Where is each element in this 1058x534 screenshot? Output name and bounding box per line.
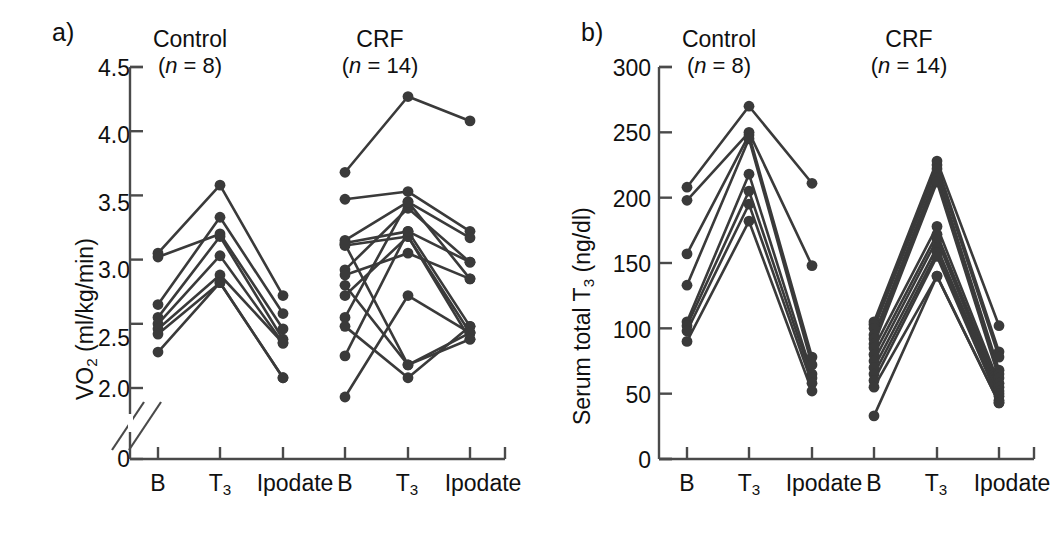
figure-container: a) Control (n = 8) CRF (n = 14) VO2 (ml/… <box>0 0 1058 534</box>
panel-a-plot <box>0 0 529 534</box>
panel-b-plot <box>529 0 1058 534</box>
panel-b: b) Control (n = 8) CRF (n = 14) Serum to… <box>529 0 1058 534</box>
panel-a: a) Control (n = 8) CRF (n = 14) VO2 (ml/… <box>0 0 529 534</box>
